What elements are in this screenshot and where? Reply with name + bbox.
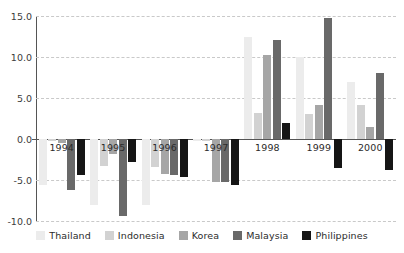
- y-axis-tick-label: -5.0: [2, 175, 32, 186]
- bar-philippines-1998: [282, 123, 290, 139]
- bar-philippines-1995: [128, 139, 136, 162]
- y-axis-tick-label: 10.0: [2, 52, 32, 63]
- bar-thailand-2000: [347, 82, 355, 139]
- bar-philippines-1999: [334, 139, 342, 168]
- bar-malaysia-2000: [376, 73, 384, 139]
- bar-malaysia-1999: [324, 18, 332, 139]
- bar-philippines-2000: [385, 139, 393, 170]
- bar-philippines-1997: [231, 139, 239, 185]
- x-axis-tick-label: 2000: [358, 142, 383, 153]
- legend-label: Korea: [192, 230, 219, 241]
- legend-label: Malaysia: [246, 230, 288, 241]
- bar-indonesia-1998: [254, 113, 262, 139]
- x-axis-tick-label: 1997: [204, 142, 229, 153]
- bar-thailand-1995: [90, 139, 98, 205]
- bar-thailand-1994: [39, 139, 47, 185]
- bar-group: 1999: [293, 16, 344, 221]
- bar-group: 2000: [345, 16, 396, 221]
- legend-item-indonesia[interactable]: Indonesia: [105, 230, 165, 241]
- legend-label: Thailand: [49, 230, 91, 241]
- gridline: [36, 221, 396, 222]
- y-axis-tick-label: -10.0: [2, 216, 32, 227]
- bar-philippines-1994: [77, 139, 85, 175]
- bar-thailand-1999: [296, 57, 304, 139]
- legend-label: Indonesia: [118, 230, 165, 241]
- bar-philippines-1996: [180, 139, 188, 177]
- bar-group: 1995: [87, 16, 138, 221]
- y-axis-tick-label: 15.0: [2, 11, 32, 22]
- legend-label: Philippines: [315, 230, 367, 241]
- x-axis-tick-label: 1994: [49, 142, 74, 153]
- chart-legend: ThailandIndonesiaKoreaMalaysiaPhilippine…: [0, 230, 404, 241]
- legend-swatch-icon: [105, 231, 114, 240]
- bar-korea-2000: [366, 127, 374, 139]
- x-axis-tick-label: 1995: [101, 142, 126, 153]
- bar-indonesia-2000: [357, 105, 365, 139]
- bar-thailand-1996: [142, 139, 150, 205]
- legend-item-philippines[interactable]: Philippines: [302, 230, 367, 241]
- legend-swatch-icon: [179, 231, 188, 240]
- bar-group: 1996: [139, 16, 190, 221]
- current-account-balance-bar-chart: 15.010.05.00.0-5.0-10.019941995199619971…: [0, 0, 404, 253]
- bar-indonesia-1999: [305, 114, 313, 139]
- legend-item-malaysia[interactable]: Malaysia: [233, 230, 288, 241]
- legend-swatch-icon: [36, 231, 45, 240]
- plot-area: 15.010.05.00.0-5.0-10.019941995199619971…: [36, 16, 396, 221]
- x-axis-tick-label: 1999: [307, 142, 332, 153]
- x-axis-tick-label: 1996: [152, 142, 177, 153]
- legend-swatch-icon: [233, 231, 242, 240]
- bar-indonesia-1997: [202, 139, 210, 141]
- x-axis-tick-label: 1998: [255, 142, 280, 153]
- bar-malaysia-1998: [273, 40, 281, 139]
- bar-group: 1998: [242, 16, 293, 221]
- y-axis-tick-label: 0.0: [2, 134, 32, 145]
- bar-thailand-1997: [193, 139, 201, 141]
- bar-group: 1997: [190, 16, 241, 221]
- bar-korea-1998: [263, 55, 271, 139]
- legend-item-korea[interactable]: Korea: [179, 230, 219, 241]
- bar-group: 1994: [36, 16, 87, 221]
- bar-korea-1999: [315, 105, 323, 139]
- y-axis-tick-label: 5.0: [2, 93, 32, 104]
- legend-swatch-icon: [302, 231, 311, 240]
- legend-item-thailand[interactable]: Thailand: [36, 230, 91, 241]
- bar-thailand-1998: [244, 37, 252, 139]
